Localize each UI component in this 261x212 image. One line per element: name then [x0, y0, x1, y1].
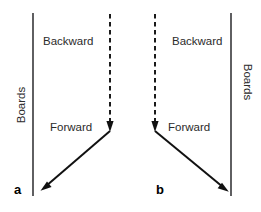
panel-a-backward-arrow: [106, 14, 113, 132]
panel-b-backward-arrow: [151, 14, 158, 132]
panel-b-boards-label: Boards: [242, 64, 254, 101]
panel-a-backward-label: Backward: [43, 35, 94, 47]
skating-direction-diagram: Backward Forward Boards a Backward Forwa…: [0, 0, 261, 212]
panel-a-forward-arrow: [41, 131, 111, 191]
panel-a-forward-label: Forward: [50, 121, 92, 133]
panel-b: Backward Forward Boards b: [151, 13, 254, 197]
panel-b-forward-arrow-shaft: [155, 131, 224, 188]
panel-a: Backward Forward Boards a: [14, 13, 114, 197]
panel-a-backward-arrow-head: [106, 121, 113, 132]
panel-b-forward-arrow: [155, 131, 229, 192]
panel-a-boards-label: Boards: [15, 87, 27, 124]
panel-b-backward-arrow-head: [151, 121, 158, 132]
panel-b-forward-label: Forward: [168, 121, 210, 133]
figure-container: Backward Forward Boards a Backward Forwa…: [0, 0, 261, 212]
panel-a-panel-label: a: [14, 182, 22, 197]
panel-b-backward-label: Backward: [172, 35, 223, 47]
panel-b-panel-label: b: [156, 182, 164, 197]
panel-a-forward-arrow-shaft: [46, 131, 111, 187]
